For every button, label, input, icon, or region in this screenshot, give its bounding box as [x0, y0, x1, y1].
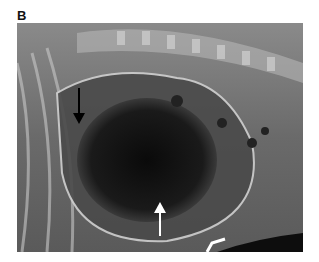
radiograph-image: [17, 23, 303, 252]
panel-label: B: [17, 8, 26, 23]
